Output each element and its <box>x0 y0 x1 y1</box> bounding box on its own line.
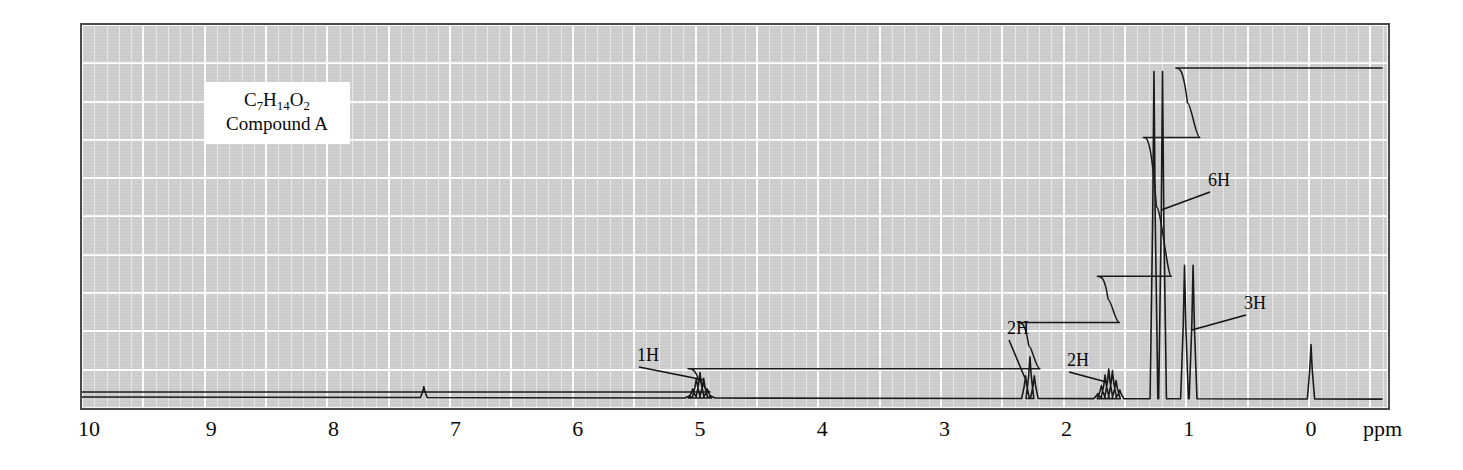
leader-line-2h-1.65 <box>1069 372 1106 382</box>
x-axis-unit-label: ppm <box>1363 416 1402 442</box>
peak-label-1h-5: 1H <box>637 345 659 366</box>
leader-line-3h-1 <box>1192 315 1246 330</box>
plot-frame: C7H14O2 Compound A 1H2H2H6H3H <box>80 23 1390 410</box>
x-axis: 109876543210 ppm <box>80 410 1390 470</box>
x-axis-tick-4: 4 <box>817 416 828 442</box>
x-axis-tick-2: 2 <box>1061 416 1072 442</box>
molecular-formula: C7H14O2 <box>226 89 328 113</box>
leader-line-2h-2.3 <box>1009 340 1025 378</box>
peak-label-2h-2.3: 2H <box>1007 318 1029 339</box>
leader-line-6h-1.25 <box>1161 192 1210 210</box>
peak-label-3h-1: 3H <box>1244 293 1266 314</box>
x-axis-tick-0: 0 <box>1306 416 1317 442</box>
compound-caption: C7H14O2 Compound A <box>204 82 350 144</box>
nmr-spectrum-figure: C7H14O2 Compound A 1H2H2H6H3H 1098765432… <box>0 0 1463 470</box>
x-axis-tick-8: 8 <box>328 416 339 442</box>
x-axis-tick-10: 10 <box>78 416 100 442</box>
x-axis-tick-6: 6 <box>572 416 583 442</box>
x-axis-tick-1: 1 <box>1183 416 1194 442</box>
x-axis-tick-5: 5 <box>695 416 706 442</box>
x-axis-tick-9: 9 <box>206 416 217 442</box>
peak-label-6h-1.25: 6H <box>1208 170 1230 191</box>
compound-name: Compound A <box>226 113 328 135</box>
x-axis-tick-3: 3 <box>939 416 950 442</box>
x-axis-tick-7: 7 <box>450 416 461 442</box>
peak-label-2h-1.65: 2H <box>1067 350 1089 371</box>
